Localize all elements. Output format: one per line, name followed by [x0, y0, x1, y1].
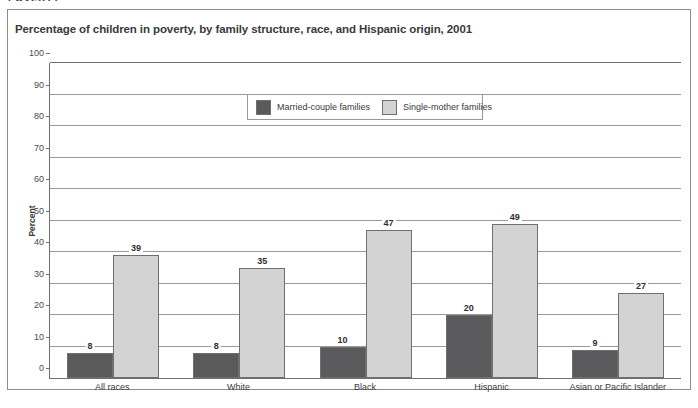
- y-tick-label-50: 50: [34, 206, 44, 216]
- bar-value-label: 9: [590, 338, 599, 348]
- chart-legend: Married-couple familiesSingle-mother fam…: [247, 94, 483, 120]
- y-tick-label-0: 0: [39, 363, 44, 373]
- bar-value-label: 10: [335, 335, 349, 345]
- legend-item[interactable]: Married-couple families: [256, 100, 370, 115]
- legend-item[interactable]: Single-mother families: [382, 100, 492, 115]
- bar[interactable]: 49: [492, 224, 538, 378]
- figure-container: Percentage of children in poverty, by fa…: [7, 9, 691, 390]
- legend-swatch-single-mother: [382, 100, 397, 115]
- bar-value-label: 8: [86, 341, 95, 351]
- legend-swatch-married-couple: [256, 100, 271, 115]
- cut-off-page-heading: POVERTY: [8, 0, 60, 1]
- bar-value-label: 20: [462, 303, 476, 313]
- y-tick-label-70: 70: [34, 143, 44, 153]
- x-axis-category-label: Black: [302, 382, 428, 393]
- bar[interactable]: 20: [446, 315, 492, 378]
- x-axis-category-label: All races: [49, 382, 175, 393]
- bar-value-label: 39: [129, 243, 143, 253]
- x-axis-category-label: White: [175, 382, 301, 393]
- bar[interactable]: 35: [239, 268, 285, 378]
- x-axis-category-label: Hispanic: [428, 382, 554, 393]
- legend-item-label: Married-couple families: [277, 102, 370, 112]
- bar-value-label: 47: [381, 218, 395, 228]
- y-tick-label-40: 40: [34, 237, 44, 247]
- y-tick-label-100: 100: [29, 48, 44, 58]
- bar[interactable]: 8: [193, 353, 239, 378]
- legend-item-label: Single-mother families: [403, 102, 492, 112]
- bar-value-label: 8: [212, 341, 221, 351]
- y-tick-label-20: 20: [34, 300, 44, 310]
- chart-title: Percentage of children in poverty, by fa…: [15, 23, 472, 35]
- bar[interactable]: 39: [113, 255, 159, 378]
- bar[interactable]: 27: [618, 293, 664, 378]
- y-tick-label-30: 30: [34, 269, 44, 279]
- y-tick-label-80: 80: [34, 111, 44, 121]
- bar-value-label: 49: [508, 212, 522, 222]
- bar[interactable]: 47: [366, 230, 412, 378]
- bar[interactable]: 10: [320, 347, 366, 379]
- bar-group: 839: [50, 63, 176, 378]
- y-tick-label-60: 60: [34, 174, 44, 184]
- bar-value-label: 27: [634, 281, 648, 291]
- bar[interactable]: 8: [67, 353, 113, 378]
- x-axis-labels: All racesWhiteBlackHispanicAsian or Paci…: [49, 382, 681, 393]
- y-tick-label-10: 10: [34, 332, 44, 342]
- x-axis-category-label: Asian or Pacific Islander: [555, 382, 681, 393]
- bar[interactable]: 9: [572, 350, 618, 378]
- bar-value-label: 35: [255, 256, 269, 266]
- bar-group: 927: [555, 63, 681, 378]
- y-tick-label-90: 90: [34, 80, 44, 90]
